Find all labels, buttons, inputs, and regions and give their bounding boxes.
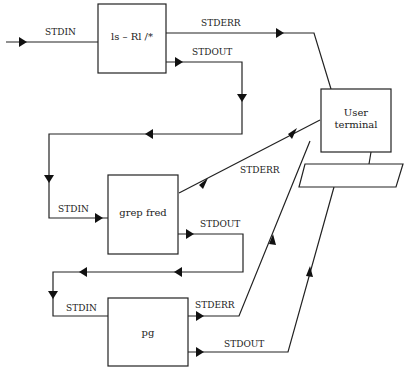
process-ls-label: ls – Rl /* [111, 31, 153, 42]
grep-stdout-label: STDOUT [200, 219, 240, 229]
arrow-left-icon [79, 267, 87, 277]
arrow-down-icon [48, 291, 58, 299]
edge-grep-stderr: STDERR [179, 120, 320, 193]
arrow-right-icon [276, 28, 284, 38]
arrow-right-icon [95, 213, 103, 223]
arrow-left-icon [174, 267, 182, 277]
process-grep: grep fred [108, 175, 178, 254]
process-pg-label: pg [142, 327, 155, 338]
ls-stdout-label: STDOUT [192, 47, 232, 57]
process-grep-label: grep fred [119, 207, 167, 218]
arrow-left-icon [145, 129, 153, 139]
grep-stderr-label: STDERR [240, 165, 280, 175]
keyboard-shape [299, 164, 403, 187]
pg-stdout-label: STDOUT [224, 339, 264, 349]
terminal-label-line2: terminal [335, 119, 378, 130]
pg-stderr-label: STDERR [195, 300, 235, 310]
arrow-down-icon [237, 94, 247, 102]
arrow-down-icon [44, 175, 54, 183]
process-ls: ls – Rl /* [98, 4, 166, 73]
process-pg: pg [108, 298, 188, 366]
edge-ls-stderr: STDERR [166, 18, 331, 89]
terminal-label-line1: User [344, 107, 368, 118]
ls-stderr-label: STDERR [201, 18, 241, 28]
arrow-right-icon [196, 347, 204, 357]
edge-input-to-ls: STDIN [6, 27, 98, 47]
user-terminal: User terminal [299, 89, 403, 187]
ls-stdin-label: STDIN [45, 27, 76, 37]
arrow-right-icon [19, 37, 27, 47]
arrow-up-right-icon [288, 128, 297, 139]
grep-stdin-label: STDIN [58, 204, 89, 214]
pg-stdin-label: STDIN [66, 303, 97, 313]
arrow-right-icon [186, 229, 194, 239]
pipeline-diagram: ls – Rl /* STDIN STDERR STDOUT grep fred… [0, 0, 404, 370]
arrow-right-icon [196, 311, 204, 321]
arrow-right-icon [175, 57, 183, 67]
